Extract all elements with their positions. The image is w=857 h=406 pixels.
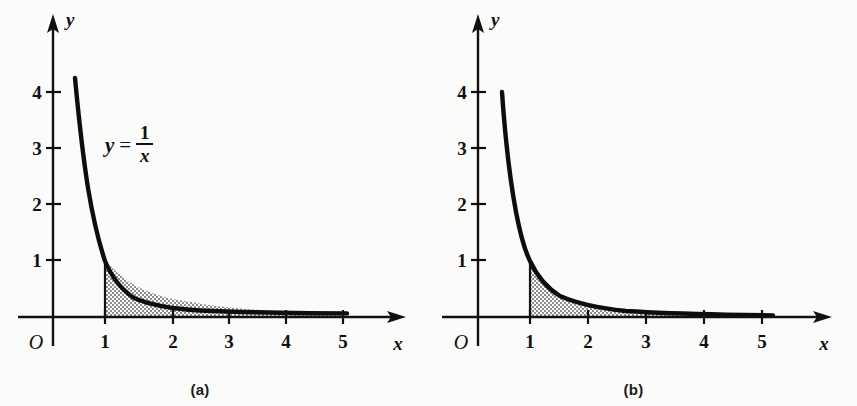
y-tick-label-b-3: 3	[457, 138, 467, 159]
x-tick-label-b-2: 2	[583, 331, 593, 352]
plot-a: 1 2 3 4 5 1 2 3 4 y x O	[0, 0, 430, 406]
figure-root: 1 2 3 4 5 1 2 3 4 y x O y = 1 x (	[0, 0, 857, 406]
panel-a: 1 2 3 4 5 1 2 3 4 y x O y = 1 x (	[0, 0, 430, 406]
curve-a	[75, 78, 347, 313]
y-axis-label-a: y	[64, 9, 75, 30]
y-tick-label-b-4: 4	[457, 82, 467, 103]
x-tick-label-b-5: 5	[757, 331, 767, 352]
panel-caption-b: (b)	[420, 381, 847, 398]
x-tick-label-b-4: 4	[699, 331, 709, 352]
x-tick-label-a-5: 5	[338, 331, 348, 352]
origin-label-a: O	[29, 331, 43, 353]
x-axis-label-b: x	[818, 333, 829, 354]
plot-b: 1 2 3 4 5 1 2 3 4 y x O	[430, 0, 857, 406]
panel-b: 1 2 3 4 5 1 2 3 4 y x O y = 1 x2	[430, 0, 857, 406]
x-tick-label-b-1: 1	[525, 331, 535, 352]
origin-label-b: O	[454, 331, 468, 353]
y-tick-label-b-1: 1	[457, 250, 467, 271]
panel-caption-a: (a)	[0, 381, 415, 398]
equation-denominator-a: x	[137, 145, 153, 165]
x-tick-label-a-2: 2	[168, 331, 178, 352]
equation-fraction-a: 1 x	[136, 123, 153, 165]
x-axis-label-a: x	[392, 333, 403, 354]
x-tick-label-a-3: 3	[224, 331, 234, 352]
x-tick-label-a-1: 1	[100, 331, 110, 352]
equation-equals-a: =	[119, 133, 131, 158]
y-tick-label-a-1: 1	[32, 250, 42, 271]
y-tick-label-b-2: 2	[457, 194, 467, 215]
equation-numerator-a: 1	[137, 123, 153, 143]
curve-b	[502, 92, 773, 315]
equation-label-a: y = 1 x	[105, 124, 153, 166]
shaded-region-a	[105, 261, 345, 317]
y-tick-label-a-2: 2	[32, 194, 42, 215]
equation-lhs-a: y	[105, 133, 114, 158]
y-tick-label-a-4: 4	[32, 82, 42, 103]
x-tick-label-b-3: 3	[641, 331, 651, 352]
y-axis-label-b: y	[489, 9, 500, 30]
x-tick-label-a-4: 4	[281, 331, 291, 352]
shaded-region-b	[530, 261, 771, 317]
y-tick-label-a-3: 3	[32, 138, 42, 159]
